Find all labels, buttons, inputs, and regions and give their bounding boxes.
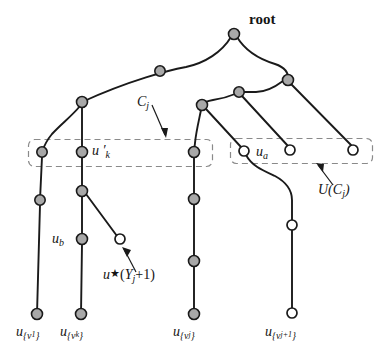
node-midcol-third	[189, 256, 200, 267]
u-of-c-j-label: U(Cj)	[318, 183, 350, 199]
node-right-branch	[234, 87, 244, 97]
u-of-c-j-arrowhead	[316, 163, 324, 172]
node-leftcol-second	[35, 195, 45, 205]
u-b-base: u	[52, 231, 59, 246]
node-root	[229, 29, 240, 40]
node-right-upper-junction	[283, 75, 294, 86]
leaf-v1-label: u{v1}	[16, 325, 39, 341]
edge-rightjunction-to-rightbranch	[239, 81, 283, 92]
node-open-mid-box	[285, 145, 295, 155]
u-star-arrowhead	[122, 247, 131, 257]
node-midcol-in-box	[189, 147, 200, 158]
annotation-arrows	[122, 105, 333, 272]
c-j-label: Cj	[137, 95, 149, 111]
leaf-vjp1-sub-close: }	[292, 330, 296, 341]
leaf-vk-sub-close: }	[79, 330, 83, 341]
node-ustar	[115, 234, 125, 244]
u-a-label: ua	[256, 145, 268, 161]
u-star-base: u	[103, 267, 110, 282]
u-star-label: u★(Yj+1)	[103, 268, 155, 284]
edge-leftcol-box-to-second	[40, 157, 42, 200]
leaf-v1-base: u	[16, 324, 23, 339]
node-leftcol-in-box	[37, 147, 47, 157]
u-a-sub: a	[263, 150, 268, 161]
u-b-sub: b	[59, 237, 64, 248]
leaf-vk-label: u{vk}	[60, 325, 83, 341]
u-prime-k-label: u ′k	[92, 144, 110, 160]
node-midcol-second	[189, 194, 200, 205]
edge-root-to-right-junction	[237, 37, 288, 80]
node-mid-branch	[197, 100, 208, 111]
leaf-vj-sub-close: }	[191, 330, 195, 341]
edge-rightjunction-to-openright	[291, 84, 351, 145]
c-j-dashed-box	[29, 140, 213, 167]
node-leaf-vk	[76, 309, 87, 320]
edge-midbranch-to-midcol	[194, 110, 201, 152]
edge-leftbranchtop-to-leftcol	[42, 106, 80, 152]
filled-nodes	[32, 29, 294, 320]
u-b-label: ub	[52, 232, 64, 248]
leaf-vj-base: u	[173, 324, 180, 339]
root-label: root	[249, 12, 275, 27]
leaf-vjp1-sub2: j+1	[280, 330, 292, 339]
node-leaf-vjp1	[287, 308, 297, 318]
u-of-c-j-base: U(C	[318, 182, 342, 197]
leaf-vjp1-label: u{vj+1}	[265, 325, 296, 341]
edge-ua-to-rightcol	[246, 155, 292, 225]
u-star-arg-close: +1)	[135, 267, 155, 282]
node-kcol-second	[77, 186, 88, 197]
node-open-right-box	[348, 145, 358, 155]
node-ukprime-in-box	[77, 147, 88, 158]
u-star-glyph: ★	[110, 267, 120, 279]
u-a-base: u	[256, 144, 263, 159]
node-rightcol-mid	[287, 220, 297, 230]
edge-leftcol-second-to-leaf	[37, 205, 40, 314]
node-leaf-v1	[32, 309, 43, 320]
tree-edges	[37, 37, 351, 314]
node-ua	[239, 146, 249, 156]
c-j-arrowhead	[161, 128, 168, 138]
leaf-vj-label: u{vj}	[173, 325, 195, 341]
leaf-vjp1-base: u	[265, 324, 272, 339]
node-leaf-vj	[189, 309, 200, 320]
u-of-c-j-close: )	[345, 182, 350, 197]
node-mid-left-upper	[155, 66, 165, 76]
open-nodes	[115, 145, 358, 318]
edge-midbranch-to-ua	[206, 109, 241, 147]
node-ub	[77, 234, 88, 245]
edge-ub-to-leaf-vk	[81, 244, 82, 314]
tree-graphic	[0, 0, 388, 351]
u-prime-k-base: u ′	[92, 143, 106, 158]
figure-root-tree-diagram: root Cj u ′k ua U(Cj) ub u★(Yj+1) u{v1} …	[0, 0, 388, 351]
c-j-label-base: C	[137, 94, 146, 109]
node-left-branch-top	[77, 97, 88, 108]
c-j-label-sub: j	[146, 100, 149, 111]
u-prime-k-sub: k	[106, 149, 110, 160]
leaf-vk-base: u	[60, 324, 67, 339]
edge-kcol-second-to-ustar	[86, 194, 117, 236]
leaf-v1-sub-close: }	[35, 330, 39, 341]
